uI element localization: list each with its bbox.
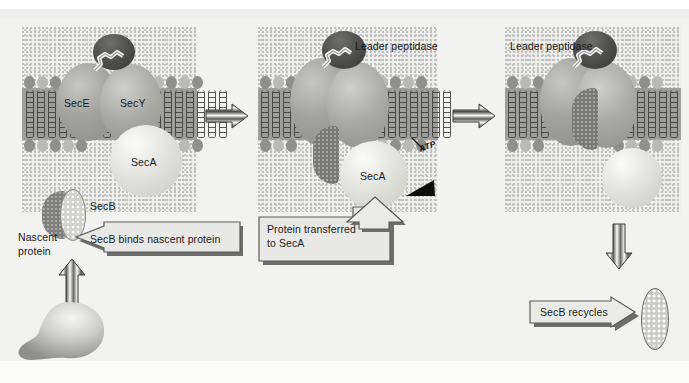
black-triangle-icon [404, 176, 438, 198]
panel-1-secY-label: SecY [120, 97, 146, 109]
top-white-band [0, 0, 689, 9]
panel-1-signal-peptide-icon [89, 44, 133, 78]
striped-down-arrow-icon [604, 222, 634, 270]
striped-up-arrow-icon [57, 258, 87, 306]
panel-3-secA-protein [602, 148, 662, 208]
secB-label: SecB [90, 200, 116, 212]
secb-binds-callout-text: SecB binds nascent protein [90, 233, 220, 245]
panel-1-secA-label: SecA [131, 156, 157, 168]
panel-3-lipid-heads-upper-left [507, 76, 546, 89]
transition-arrow-1 [205, 103, 249, 129]
protein-translocation-figure: SecE SecY SecA SecB Nascent protein [0, 0, 689, 383]
protein-transferred-text-line2: to SecA [267, 237, 304, 249]
panel-3-lipid-heads-lower-left [507, 139, 546, 152]
panel-3-secB-hatched-lobe [572, 88, 598, 150]
ribosome-nascent-chain [14, 300, 114, 372]
recycled-secB-oval [641, 288, 669, 350]
atp-pointer-line-icon [410, 136, 436, 156]
panel-2-lipid-heads-lower-left [260, 139, 299, 152]
panel-3-leader-peptidase-label: Leader peptidase [510, 40, 593, 52]
panel-2-secB-hatched-lobe [313, 126, 339, 184]
nascent-protein-label-line2: protein [18, 245, 51, 257]
nascent-protein-label-line1: Nascent [18, 231, 57, 243]
top-gray-band [0, 9, 689, 18]
panel-2-secA-label: SecA [360, 170, 386, 182]
protein-transferred-text-line1: Protein transferred [267, 223, 356, 235]
secb-recycles-text: SecB recycles [540, 306, 608, 318]
panel-1-lipid-heads-lower [24, 139, 89, 152]
panel-2-leader-peptidase-label: Leader peptidase [355, 40, 438, 52]
panel-1-secE-label: SecE [64, 97, 90, 109]
transition-arrow-2 [452, 103, 496, 129]
